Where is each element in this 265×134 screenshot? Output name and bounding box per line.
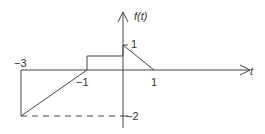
tick-label-yneg2: −2 [126,110,139,122]
tick-label-neg1: −1 [76,76,89,88]
y-axis-label: f(t) [134,10,148,22]
x-axis-label: t [250,65,254,77]
tick-label-y1: 1 [131,38,137,50]
tick-label-neg3: −3 [14,57,27,69]
signal-plot: f(t) t −3 −1 1 1 −2 [0,0,265,134]
tick-label-pos1: 1 [151,76,157,88]
